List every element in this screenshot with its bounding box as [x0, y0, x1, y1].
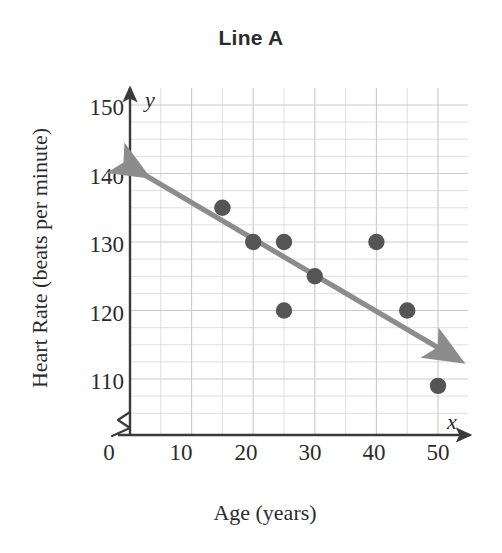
data-point [245, 234, 261, 250]
grid-minor-vertical [130, 88, 438, 435]
grid-minor-horizontal [130, 105, 468, 413]
data-point [214, 200, 230, 216]
axis-break-symbol [112, 412, 130, 436]
data-point [368, 234, 384, 250]
plot-svg: y x [0, 0, 502, 553]
data-point [430, 378, 446, 394]
data-point [276, 302, 292, 318]
data-point [276, 234, 292, 250]
x-axis-variable-label: x [446, 409, 457, 434]
y-axis-variable-label: y [143, 87, 155, 112]
trend-line [142, 174, 456, 359]
data-point [399, 302, 415, 318]
chart-page: Line A Heart Rate (beats per minute) Age… [0, 0, 502, 553]
data-point [307, 268, 323, 284]
data-points [214, 200, 446, 394]
